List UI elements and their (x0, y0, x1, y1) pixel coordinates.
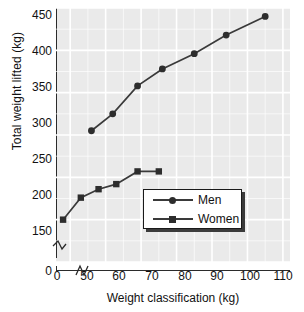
y-tick-label: 400 (26, 45, 52, 57)
x-axis-title: Weight classification (kg) (56, 291, 290, 305)
x-tick-label: 0 (42, 270, 72, 282)
circle-marker-icon (151, 193, 195, 207)
y-tick-label: 200 (26, 189, 52, 201)
x-tick-label: 110 (268, 270, 298, 282)
legend-label: Men (198, 193, 221, 207)
x-tick-label: 70 (137, 270, 167, 282)
legend-item-women[interactable]: Women (144, 209, 243, 229)
chart-figure: 450 400 350 300 250 200 150 0 0 50 60 70… (0, 0, 304, 312)
y-axis-title: Total weight lifted (kg) (10, 6, 24, 176)
y-axis-line (56, 8, 57, 258)
x-tick-label-group: 0 50 60 70 80 90 100 110 (0, 270, 304, 286)
x-tick-label: 90 (202, 270, 232, 282)
x-tick-label: 100 (235, 270, 265, 282)
square-marker-icon (151, 212, 195, 226)
y-tick-label: 150 (26, 225, 52, 237)
x-tick-label: 50 (72, 270, 102, 282)
y-tick-label: 250 (26, 153, 52, 165)
legend-item-men[interactable]: Men (144, 190, 243, 210)
legend-label: Women (198, 212, 239, 226)
x-tick-label: 80 (170, 270, 200, 282)
y-tick-label-group: 450 400 350 300 250 200 150 0 (22, 0, 52, 312)
y-tick-label: 300 (26, 117, 52, 129)
y-tick-label: 350 (26, 81, 52, 93)
y-tick-label: 450 (26, 9, 52, 21)
x-tick-label: 60 (104, 270, 134, 282)
chart-legend[interactable]: Men Women (143, 189, 242, 229)
